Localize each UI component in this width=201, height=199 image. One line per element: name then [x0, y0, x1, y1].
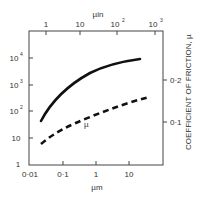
right-tick-label: 0·2 [170, 76, 182, 85]
left-tick-label: 10 [12, 134, 21, 143]
left-tick-label: 10 [10, 81, 19, 90]
top-axis [46, 31, 155, 35]
left-tick-exp: 2 [20, 104, 23, 110]
solid-curve [41, 59, 140, 121]
bottom-axis [63, 161, 129, 165]
top-tick-exp: 3 [160, 17, 163, 23]
bottom-axis-label: µm [91, 183, 103, 192]
left-tick-exp: 4 [20, 51, 23, 57]
chart: 1 10 10 2 10 3 µin 0·01 0·1 1 10 µm 1 10… [0, 0, 201, 199]
bottom-tick-label: 0·01 [22, 170, 39, 179]
mu-dashed-curve [41, 97, 149, 144]
right-axis [163, 80, 167, 122]
top-tick-label: 10 [149, 20, 158, 29]
left-tick-label: 1 [16, 160, 21, 169]
top-tick-label: 10 [76, 20, 85, 29]
left-tick-exp: 3 [20, 78, 23, 84]
top-tick-label: 1 [44, 20, 49, 29]
right-axis-label: COEFFICIENT OF FRICTION, µ [184, 34, 193, 150]
bottom-tick-label: 0·1 [57, 170, 69, 179]
left-axis [29, 58, 33, 138]
top-axis-label: µin [93, 10, 104, 19]
left-tick-label: 10 [10, 54, 19, 63]
mu-curve-label: µ [84, 120, 89, 129]
bottom-tick-label: 10 [125, 170, 134, 179]
top-tick-exp: 2 [122, 17, 125, 23]
right-tick-label: 0·1 [170, 118, 182, 127]
bottom-tick-label: 1 [94, 170, 99, 179]
top-tick-label: 10 [111, 20, 120, 29]
left-tick-label: 10 [10, 107, 19, 116]
